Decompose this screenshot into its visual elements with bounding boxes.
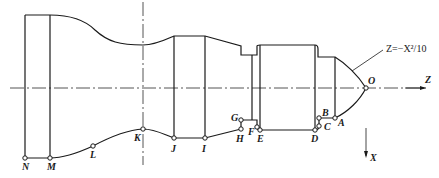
x-axis-label: X <box>369 152 377 163</box>
point-m <box>48 156 52 160</box>
point-k <box>141 127 145 131</box>
point-b <box>317 116 321 120</box>
label-c: C <box>324 121 331 132</box>
label-g: G <box>231 112 239 123</box>
equation-leader <box>352 50 383 71</box>
point-f <box>255 125 259 129</box>
part-drawing: Z=−X²/10 X Z O A B C D E F G H I J K L M… <box>0 0 439 178</box>
equation-label: Z=−X²/10 <box>386 43 426 54</box>
label-h: H <box>235 133 245 144</box>
point-a <box>333 116 337 120</box>
point-c <box>317 124 321 128</box>
point-h <box>239 127 243 131</box>
label-d: D <box>310 133 318 144</box>
label-j: J <box>170 143 177 154</box>
point-i <box>203 136 207 140</box>
label-k: K <box>133 132 142 143</box>
label-b: B <box>321 107 329 118</box>
lower-profile-left <box>25 129 241 158</box>
z-arrow-icon <box>420 86 426 90</box>
label-m: M <box>46 161 57 172</box>
z-axis-label: Z <box>424 74 431 85</box>
label-n: N <box>21 161 30 172</box>
point-o <box>364 86 368 90</box>
x-arrow-icon <box>364 151 368 158</box>
label-e: E <box>256 133 264 144</box>
label-l: L <box>89 149 96 160</box>
point-d <box>313 128 317 132</box>
label-o: O <box>368 75 375 86</box>
drawing-canvas: Z=−X²/10 X Z O A B C D E F G H I J K L M… <box>0 0 439 178</box>
point-g <box>239 118 243 122</box>
label-i: I <box>201 143 207 154</box>
point-n <box>23 156 27 160</box>
label-f: F <box>247 126 255 137</box>
point-j <box>172 136 176 140</box>
label-a: A <box>337 117 345 128</box>
point-l <box>91 144 95 148</box>
